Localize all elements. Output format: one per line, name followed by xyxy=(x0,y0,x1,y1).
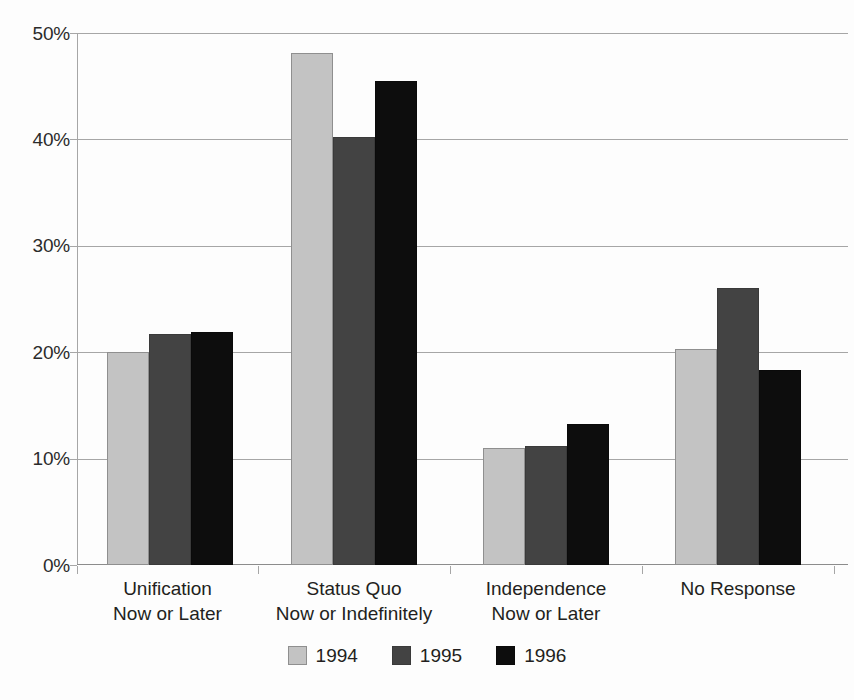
x-category-label-unification-line2: Now or Later xyxy=(77,601,258,626)
bar-independence-1995 xyxy=(525,446,567,565)
x-category-label-unification: Unification Now or Later xyxy=(77,576,258,626)
bar-independence-1994 xyxy=(483,448,525,565)
y-axis-tick-labels: 50% 40% 30% 20% 10% 0% xyxy=(0,0,70,700)
bar-group-independence xyxy=(450,33,642,565)
x-category-label-no-response: No Response xyxy=(642,576,834,601)
y-tick-mark-10 xyxy=(70,459,77,460)
y-tick-label-30: 30% xyxy=(8,236,70,255)
y-tick-mark-0 xyxy=(70,565,77,566)
x-category-label-independence: Independence Now or Later xyxy=(450,576,642,626)
x-tick-mark-0 xyxy=(77,566,78,574)
y-tick-label-0: 0% xyxy=(8,556,70,575)
legend-item-1994: 1994 xyxy=(288,646,358,665)
legend-item-1995: 1995 xyxy=(392,646,462,665)
bar-unification-1995 xyxy=(149,334,191,565)
x-tick-mark-3 xyxy=(642,566,643,574)
y-tick-label-20: 20% xyxy=(8,343,70,362)
bar-group-no-response xyxy=(642,33,834,565)
x-tick-mark-1 xyxy=(258,566,259,574)
y-tick-label-50: 50% xyxy=(8,24,70,43)
chart-legend: 1994 1995 1996 xyxy=(0,646,854,665)
y-tick-mark-20 xyxy=(70,352,77,353)
bar-no-response-1996 xyxy=(759,370,801,565)
bar-no-response-1995 xyxy=(717,288,759,565)
bar-unification-1996 xyxy=(191,332,233,565)
bar-status-quo-1996 xyxy=(375,81,417,565)
bar-chart: 50% 40% 30% 20% 10% 0% xyxy=(0,0,854,700)
legend-item-1996: 1996 xyxy=(496,646,566,665)
y-tick-mark-50 xyxy=(70,33,77,34)
legend-swatch-icon-1996 xyxy=(496,646,515,665)
x-category-label-status-quo: Status Quo Now or Indefinitely xyxy=(258,576,450,626)
bar-status-quo-1995 xyxy=(333,137,375,565)
bar-group-unification xyxy=(77,33,258,565)
bar-status-quo-1994 xyxy=(291,53,333,565)
bar-group-status-quo xyxy=(258,33,450,565)
y-tick-label-40: 40% xyxy=(8,130,70,149)
x-tick-mark-4 xyxy=(834,566,835,574)
bar-unification-1994 xyxy=(107,352,149,565)
legend-label-1995: 1995 xyxy=(420,646,462,665)
x-category-label-status-quo-line2: Now or Indefinitely xyxy=(258,601,450,626)
x-category-label-status-quo-line1: Status Quo xyxy=(258,576,450,601)
bar-no-response-1994 xyxy=(675,349,717,565)
y-tick-mark-40 xyxy=(70,139,77,140)
y-tick-label-10: 10% xyxy=(8,449,70,468)
x-tick-mark-2 xyxy=(450,566,451,574)
legend-label-1994: 1994 xyxy=(316,646,358,665)
x-category-label-independence-line1: Independence xyxy=(450,576,642,601)
y-tick-mark-30 xyxy=(70,246,77,247)
x-category-label-independence-line2: Now or Later xyxy=(450,601,642,626)
x-category-label-unification-line1: Unification xyxy=(77,576,258,601)
legend-swatch-icon-1995 xyxy=(392,646,411,665)
bar-independence-1996 xyxy=(567,424,609,566)
legend-swatch-icon-1994 xyxy=(288,646,307,665)
legend-label-1996: 1996 xyxy=(524,646,566,665)
plot-area xyxy=(77,33,848,565)
x-category-label-no-response-line1: No Response xyxy=(642,576,834,601)
